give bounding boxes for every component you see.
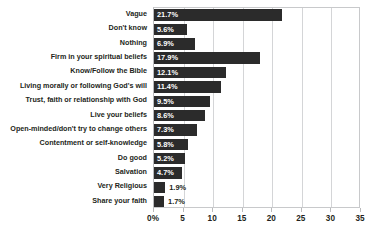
- bar-row: 17.9%: [154, 51, 359, 65]
- bar-value-label: 17.9%: [157, 52, 178, 63]
- bar-value-label: 7.3%: [157, 124, 174, 135]
- category-label-column: VagueDon't knowNothingFirm in your spiri…: [0, 7, 150, 208]
- x-tick-mark: [212, 208, 213, 212]
- horizontal-bar-chart: VagueDon't knowNothingFirm in your spiri…: [0, 0, 367, 236]
- bar-row: 5.8%: [154, 137, 359, 151]
- bar-row: 9.5%: [154, 94, 359, 108]
- x-tick-label: 15: [237, 214, 246, 223]
- category-label: Share your faith: [92, 194, 147, 208]
- bar-value-label: 12.1%: [157, 67, 178, 78]
- bar-value-label: 11.4%: [157, 81, 178, 92]
- bar-value-label: 6.9%: [157, 38, 174, 49]
- bar-row: 6.9%: [154, 37, 359, 51]
- bar-row: 5.6%: [154, 22, 359, 36]
- x-tick-label: 5: [180, 214, 185, 223]
- x-tick-mark: [360, 208, 361, 212]
- category-label: Nothing: [120, 36, 147, 50]
- bar-value-label: 21.7%: [157, 9, 178, 20]
- category-label: Salvation: [115, 165, 147, 179]
- category-label: Very Religious: [97, 179, 147, 193]
- x-tick-label: 30: [326, 214, 335, 223]
- category-label: Vague: [126, 7, 147, 21]
- category-label: Do good: [118, 151, 147, 165]
- category-label: Contentment or self-knowledge: [40, 136, 147, 150]
- x-tick-mark: [153, 208, 154, 212]
- category-label: Living morally or following God's will: [20, 79, 147, 93]
- bar-value-label: 9.5%: [157, 96, 174, 107]
- category-label: Open-minded/don't try to change others: [10, 122, 147, 136]
- bar-row: 1.7%: [154, 195, 359, 209]
- x-tick-mark: [271, 208, 272, 212]
- x-tick-label: 10: [208, 214, 217, 223]
- bar-row: 21.7%: [154, 8, 359, 22]
- category-label: Know/Follow the Bible: [70, 64, 147, 78]
- x-tick-label: 0%: [147, 214, 159, 223]
- bar-row: 7.3%: [154, 123, 359, 137]
- x-tick-label: 25: [296, 214, 305, 223]
- x-tick-mark: [242, 208, 243, 212]
- bar-row: 1.9%: [154, 180, 359, 194]
- category-label: Don't know: [109, 21, 147, 35]
- category-label: Firm in your spiritual beliefs: [51, 50, 147, 64]
- x-tick-mark: [330, 208, 331, 212]
- bar-value-label: 5.6%: [157, 24, 174, 35]
- bar-row: 4.7%: [154, 166, 359, 180]
- x-tick-mark: [301, 208, 302, 212]
- bar-row: 12.1%: [154, 65, 359, 79]
- bar-row: 5.2%: [154, 152, 359, 166]
- bar-value-label: 1.7%: [168, 196, 185, 207]
- category-label: Live your beliefs: [90, 108, 147, 122]
- bar-value-label: 4.7%: [157, 167, 174, 178]
- bar-value-label: 5.8%: [157, 139, 174, 150]
- bar: [154, 196, 164, 207]
- bar-value-label: 1.9%: [169, 182, 186, 193]
- x-tick-label: 20: [267, 214, 276, 223]
- x-tick-mark: [183, 208, 184, 212]
- bar: [154, 182, 165, 193]
- bar-row: 11.4%: [154, 80, 359, 94]
- x-axis: 0%5101520253035: [153, 208, 360, 230]
- bar-value-label: 5.2%: [157, 153, 174, 164]
- bar-value-label: 8.6%: [157, 110, 174, 121]
- bar-row: 8.6%: [154, 109, 359, 123]
- category-label: Trust, faith or relationship with God: [26, 93, 147, 107]
- bars-layer: 21.7%5.6%6.9%17.9%12.1%11.4%9.5%8.6%7.3%…: [154, 8, 359, 207]
- plot-area: 21.7%5.6%6.9%17.9%12.1%11.4%9.5%8.6%7.3%…: [153, 7, 360, 208]
- x-tick-label: 35: [355, 214, 364, 223]
